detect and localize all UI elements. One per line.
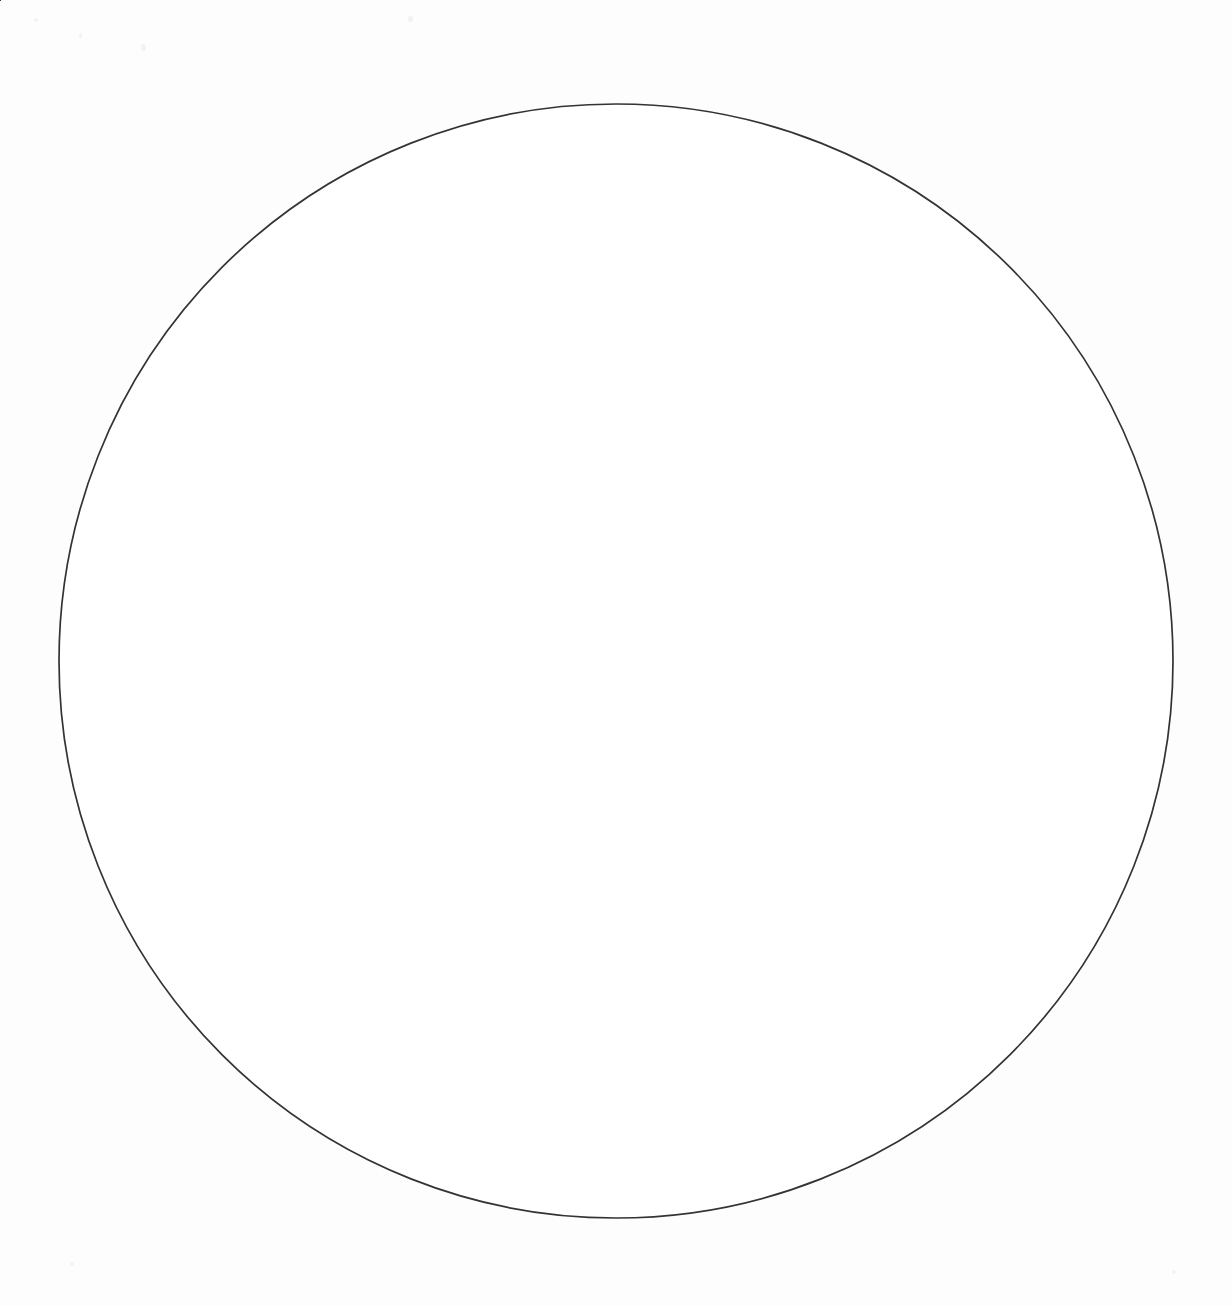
wheel-diagram (0, 0, 1232, 1306)
wheel-outer-circle (59, 104, 1173, 1218)
